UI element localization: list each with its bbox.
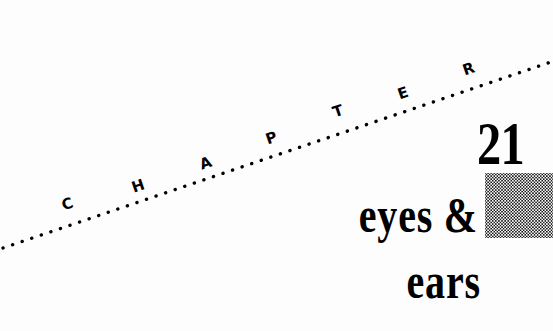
chapter-title: eyes & ears [0, 0, 553, 331]
chapter-title-line-1: eyes & [359, 190, 478, 240]
chapter-opener-page: C H A P T E R 21 eyes & ears [0, 0, 553, 331]
chapter-title-line-2: ears [407, 256, 481, 306]
